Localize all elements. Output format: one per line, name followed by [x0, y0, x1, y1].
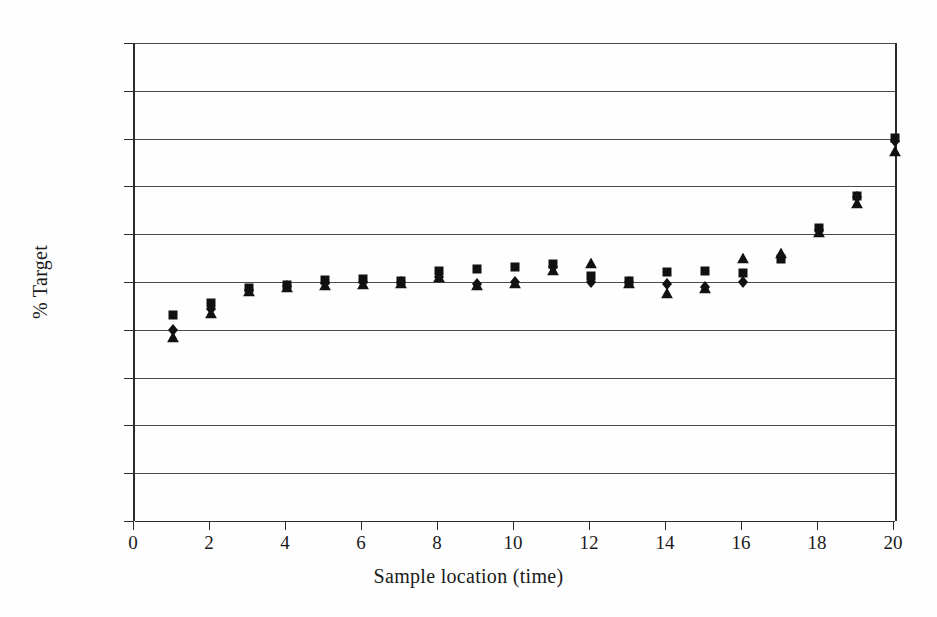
x-tick-mark-4 [285, 521, 286, 530]
plot-area [133, 43, 897, 521]
x-tick-label-0: 0 [128, 532, 138, 554]
y-tick-mark-75.0 [124, 521, 133, 522]
gridline-90.0 [135, 378, 895, 379]
figure-canvas: 75.080.085.090.095.0100.0105.0110.0115.0… [0, 0, 937, 617]
data-point-square-x14 [662, 267, 672, 277]
gridline-75.0 [135, 521, 895, 522]
data-point-triangle-x8 [433, 272, 445, 283]
y-tick-mark-80.0 [124, 473, 133, 474]
data-point-square-x10 [510, 262, 520, 272]
x-tick-mark-18 [817, 521, 818, 530]
gridline-120.0 [135, 91, 895, 92]
data-point-triangle-x3 [243, 285, 255, 296]
y-tick-mark-105.0 [124, 234, 133, 235]
data-point-triangle-x14 [661, 288, 673, 299]
data-point-triangle-x20 [889, 146, 901, 157]
gridline-80.0 [135, 473, 895, 474]
y-tick-mark-125.0 [124, 43, 133, 44]
gridline-110.0 [135, 186, 895, 187]
data-point-triangle-x1 [167, 332, 179, 343]
data-point-triangle-x9 [471, 279, 483, 290]
data-point-triangle-x18 [813, 227, 825, 238]
data-point-triangle-x2 [205, 307, 217, 318]
x-tick-mark-2 [209, 521, 210, 530]
gridline-115.0 [135, 139, 895, 140]
x-tick-mark-8 [437, 521, 438, 530]
x-tick-label-2: 2 [204, 532, 214, 554]
data-point-triangle-x12 [585, 257, 597, 268]
data-point-diamond-x12 [585, 276, 597, 288]
x-tick-label-16: 16 [732, 532, 751, 554]
x-tick-label-6: 6 [356, 532, 366, 554]
y-tick-mark-85.0 [124, 425, 133, 426]
gridline-95.0 [135, 330, 895, 331]
y-tick-mark-95.0 [124, 330, 133, 331]
data-point-square-x15 [700, 266, 710, 276]
data-point-triangle-x10 [509, 277, 521, 288]
x-tick-label-4: 4 [280, 532, 290, 554]
y-tick-mark-100.0 [124, 282, 133, 283]
data-point-triangle-x17 [775, 248, 787, 259]
data-point-triangle-x13 [623, 277, 635, 288]
y-tick-mark-115.0 [124, 139, 133, 140]
data-point-square-x9 [472, 264, 482, 274]
gridline-105.0 [135, 234, 895, 235]
x-tick-mark-6 [361, 521, 362, 530]
data-point-triangle-x6 [357, 278, 369, 289]
x-tick-label-12: 12 [580, 532, 599, 554]
data-point-triangle-x16 [737, 253, 749, 264]
y-tick-mark-110.0 [124, 186, 133, 187]
data-point-diamond-x16 [737, 276, 749, 288]
x-tick-mark-16 [741, 521, 742, 530]
data-point-square-x1 [168, 310, 178, 320]
data-point-triangle-x7 [395, 277, 407, 288]
x-tick-mark-0 [133, 521, 134, 530]
x-tick-label-20: 20 [884, 532, 903, 554]
x-tick-label-8: 8 [432, 532, 442, 554]
data-point-triangle-x15 [699, 282, 711, 293]
data-point-triangle-x19 [851, 197, 863, 208]
x-tick-label-14: 14 [656, 532, 675, 554]
x-tick-mark-10 [513, 521, 514, 530]
gridline-85.0 [135, 425, 895, 426]
x-tick-label-18: 18 [808, 532, 827, 554]
x-tick-mark-12 [589, 521, 590, 530]
x-tick-label-10: 10 [504, 532, 523, 554]
y-tick-mark-120.0 [124, 91, 133, 92]
gridline-125.0 [135, 43, 895, 44]
y-axis-title: % Target [29, 245, 52, 319]
x-tick-mark-20 [893, 521, 894, 530]
data-point-triangle-x4 [281, 281, 293, 292]
y-tick-mark-90.0 [124, 378, 133, 379]
data-point-triangle-x11 [547, 264, 559, 275]
data-point-triangle-x5 [319, 279, 331, 290]
x-tick-mark-14 [665, 521, 666, 530]
x-axis-title: Sample location (time) [0, 565, 937, 588]
